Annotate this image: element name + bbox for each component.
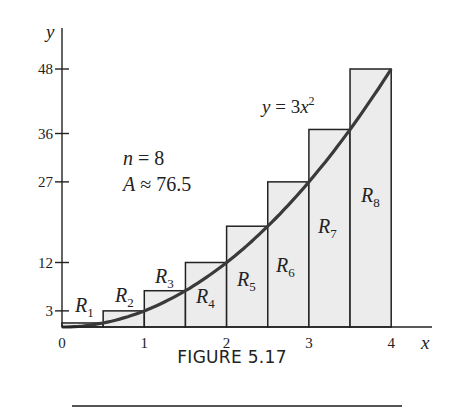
area-annotation: A ≈ 76.5 xyxy=(121,173,191,195)
label-r1: R1 xyxy=(74,294,94,320)
y-ticks: 312273648 xyxy=(38,61,69,319)
y-tick-label: 3 xyxy=(46,303,54,319)
divider-rule xyxy=(72,405,402,407)
n-annotation: n = 8 xyxy=(123,147,164,169)
rectangles xyxy=(62,69,391,327)
figure-caption: FIGURE 5.17 xyxy=(0,347,464,367)
label-r2: R2 xyxy=(114,284,134,310)
curve-label: y = 3x2 xyxy=(260,94,315,117)
y-tick-label: 12 xyxy=(38,255,53,271)
y-axis-label: y xyxy=(44,21,55,42)
y-tick-label: 36 xyxy=(38,126,54,142)
y-tick-label: 48 xyxy=(38,61,53,77)
label-r3: R3 xyxy=(154,265,174,291)
n-value: = 8 xyxy=(133,147,164,169)
y-tick-label: 27 xyxy=(38,174,54,190)
